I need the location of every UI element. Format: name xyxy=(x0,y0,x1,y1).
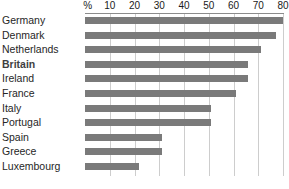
x-axis-unit-label: % xyxy=(80,0,96,12)
category-label: Netherlands xyxy=(2,42,59,56)
x-axis-tick-label: 80 xyxy=(272,0,289,12)
bar-track xyxy=(85,29,283,44)
bar-row: Denmark xyxy=(0,29,289,44)
bar-track xyxy=(85,160,283,175)
x-axis-tick-label: 30 xyxy=(148,0,170,12)
bar-chart: % 1020304050607080 GermanyDenmarkNetherl… xyxy=(0,0,289,189)
bar-track xyxy=(85,87,283,102)
bar xyxy=(85,90,236,97)
bar-track xyxy=(85,131,283,146)
bar xyxy=(85,32,276,39)
bar xyxy=(85,119,211,126)
bar-track xyxy=(85,72,283,87)
x-axis-tick-label: 50 xyxy=(198,0,220,12)
x-axis-tick-label: 20 xyxy=(124,0,146,12)
x-axis-tick-label: 70 xyxy=(247,0,269,12)
bar xyxy=(85,134,162,141)
bar xyxy=(85,105,211,112)
category-label: Ireland xyxy=(2,71,34,85)
bar-track xyxy=(85,58,283,73)
bar-row: Netherlands xyxy=(0,43,289,58)
bar xyxy=(85,148,162,155)
plot-area: GermanyDenmarkNetherlandsBritainIrelandF… xyxy=(0,14,289,189)
bar-track xyxy=(85,145,283,160)
bar-row: Germany xyxy=(0,14,289,29)
x-axis-tick-label: 60 xyxy=(223,0,245,12)
bar-row: Greece xyxy=(0,145,289,160)
bar xyxy=(85,75,248,82)
bar-row: Luxembourg xyxy=(0,160,289,175)
x-axis-tick-label: 40 xyxy=(173,0,195,12)
category-label: Portugal xyxy=(2,115,41,129)
bar xyxy=(85,17,283,24)
category-label: Spain xyxy=(2,130,29,144)
category-label: France xyxy=(2,86,35,100)
bar-track xyxy=(85,102,283,117)
category-label: Britain xyxy=(2,57,35,71)
bar-row: Ireland xyxy=(0,72,289,87)
category-label: Italy xyxy=(2,101,21,115)
bar-row: Spain xyxy=(0,131,289,146)
category-label: Greece xyxy=(2,144,36,158)
bar xyxy=(85,46,261,53)
bar-row: France xyxy=(0,87,289,102)
bar-track xyxy=(85,116,283,131)
category-label: Germany xyxy=(2,13,45,27)
bar-row: Italy xyxy=(0,102,289,117)
category-label: Denmark xyxy=(2,28,45,42)
bar xyxy=(85,61,248,68)
x-axis-header: % 1020304050607080 xyxy=(0,0,289,14)
bar-track xyxy=(85,43,283,58)
category-label: Luxembourg xyxy=(2,159,60,173)
bar-row: Britain xyxy=(0,58,289,73)
bar xyxy=(85,163,139,170)
bar-rows: GermanyDenmarkNetherlandsBritainIrelandF… xyxy=(0,14,289,175)
x-axis-tick-label: 10 xyxy=(99,0,121,12)
bar-row: Portugal xyxy=(0,116,289,131)
bar-track xyxy=(85,14,283,29)
